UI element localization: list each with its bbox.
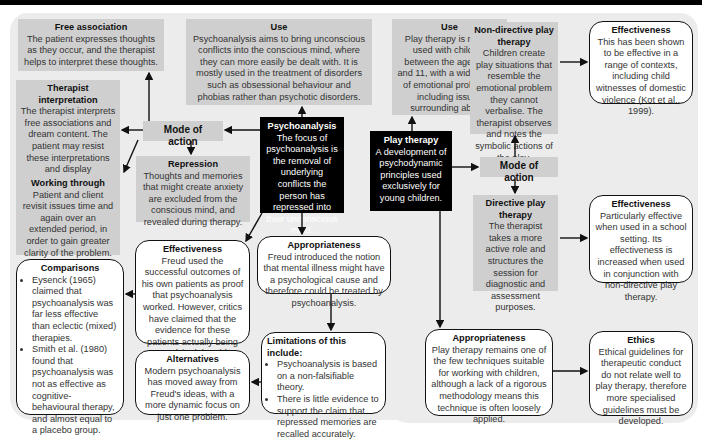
psychoanalysis-central-box: Psychoanalysis The focus of psychoanalys…	[260, 117, 344, 213]
limitations-box: Limitations of this include: Psychoanaly…	[261, 332, 386, 414]
comparisons-title: Comparisons	[22, 263, 118, 275]
repression-box: Repression Thoughts and memories that mi…	[136, 156, 250, 222]
free-association-box: Free association The patient expresses t…	[18, 19, 164, 71]
repression-title: Repression	[140, 159, 246, 171]
top-bar	[0, 0, 702, 5]
ethics-body: Ethical guidelines for therapeutic condu…	[595, 347, 687, 428]
play-therapy-central-body: A development of psychodynamic principle…	[374, 147, 448, 205]
play-therapy-effectiveness-box-2: Effectiveness Particularly effective whe…	[589, 195, 693, 283]
play-therapy-effectiveness-1-title: Effectiveness	[595, 25, 687, 37]
working-through-title: Working through	[20, 178, 116, 190]
psychoanalysis-use-box: Use Psychoanalysis aims to bring unconsc…	[186, 19, 372, 105]
play-therapy-appropriateness-title: Appropriateness	[431, 333, 547, 345]
alternatives-box: Alternatives Modern psychoanalysis has m…	[135, 350, 250, 415]
psychoanalysis-use-title: Use	[190, 22, 368, 34]
play-therapy-appropriateness-box: Appropriateness Play therapy remains one…	[425, 329, 553, 416]
psychoanalysis-appropriateness-body: Freud introduced the notion that mental …	[263, 252, 385, 310]
psychoanalysis-effectiveness-box: Effectiveness Freud used the successful …	[135, 240, 250, 344]
comparisons-item: Smith et al. (1980) found that psychoana…	[32, 344, 118, 437]
therapist-interpretation-box: Therapist interpretation The therapist i…	[16, 80, 120, 178]
limitations-list: Psychoanalysis is based on a non-falsifi…	[267, 359, 380, 440]
directive-title: Directive play therapy	[477, 198, 554, 221]
directive-body: The therapist takes a more active role a…	[477, 221, 554, 314]
limitations-item: Psychoanalysis is based on a non-falsifi…	[277, 359, 380, 394]
play-therapy-mode-of-action: Mode of action	[480, 157, 558, 177]
psychoanalysis-appropriateness-box: Appropriateness Freud introduced the not…	[257, 236, 391, 294]
psychoanalysis-use-body: Psychoanalysis aims to bring unconscious…	[190, 34, 368, 104]
working-through-box: Working through Patient and client revis…	[16, 175, 120, 255]
play-therapy-effectiveness-box-1: Effectiveness This has been shown to be …	[589, 21, 693, 104]
directive-play-therapy-box: Directive play therapy The therapist tak…	[473, 195, 558, 291]
ethics-box: Ethics Ethical guidelines for therapeuti…	[589, 331, 693, 416]
psychoanalysis-central-body: The focus of psychoanalysis is the remov…	[264, 133, 340, 237]
psychoanalysis-central-title: Psychoanalysis	[264, 121, 340, 133]
play-therapy-appropriateness-body: Play therapy remains one of the few tech…	[431, 345, 547, 426]
therapist-interpretation-title: Therapist interpretation	[20, 83, 116, 106]
working-through-body: Patient and client revisit issues time a…	[20, 190, 116, 260]
free-association-body: The patient expresses thoughts as they o…	[22, 34, 160, 69]
limitations-title: Limitations of this include:	[267, 336, 380, 359]
ethics-title: Ethics	[595, 335, 687, 347]
psychoanalysis-effectiveness-title: Effectiveness	[141, 244, 244, 256]
repression-body: Thoughts and memories that might create …	[140, 171, 246, 229]
alternatives-body: Modern psychoanalysis has moved away fro…	[141, 366, 244, 424]
non-directive-title: Non-directive play therapy	[474, 25, 554, 48]
comparisons-list: Eysenck (1965) claimed that psychoanalys…	[22, 275, 118, 437]
play-therapy-effectiveness-2-title: Effectiveness	[595, 199, 687, 211]
play-therapy-effectiveness-1-body: This has been shown to be effective in a…	[595, 37, 687, 118]
play-therapy-central-box: Play therapy A development of psychodyna…	[370, 131, 452, 211]
limitations-item: There is little evidence to support the …	[277, 394, 380, 440]
play-therapy-central-title: Play therapy	[374, 135, 448, 147]
comparisons-item: Eysenck (1965) claimed that psychoanalys…	[32, 275, 118, 345]
free-association-title: Free association	[22, 22, 160, 34]
psychoanalysis-appropriateness-title: Appropriateness	[263, 240, 385, 252]
play-therapy-effectiveness-2-body: Particularly effective when used in a sc…	[595, 211, 687, 304]
psychoanalysis-mode-of-action: Mode of action	[143, 121, 223, 141]
comparisons-box: Comparisons Eysenck (1965) claimed that …	[16, 259, 124, 415]
non-directive-body: Children create play situations that res…	[474, 48, 554, 164]
alternatives-title: Alternatives	[141, 354, 244, 366]
non-directive-play-therapy-box: Non-directive play therapy Children crea…	[470, 22, 558, 134]
